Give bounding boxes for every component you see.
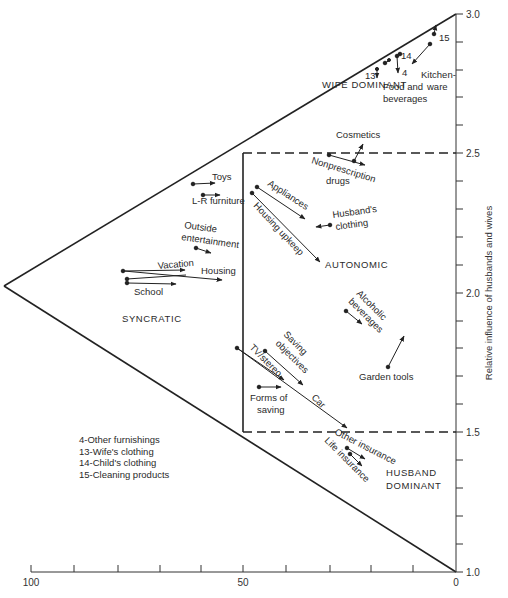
label-13: 13 — [365, 70, 376, 81]
label-car: Car — [310, 392, 329, 411]
label-4: 4 — [402, 67, 407, 78]
x-axis — [31, 565, 456, 572]
y-tick-2-0: 2.0 — [466, 288, 480, 299]
y-tick-1-0: 1.0 — [466, 567, 480, 578]
label-appliances: Appliances — [266, 177, 311, 212]
y-tick-3-0: 3.0 — [466, 9, 480, 20]
label-vacation: Vacation — [157, 257, 194, 271]
legend-item: 4-Other furnishings — [79, 434, 169, 446]
region-syncratic: SYNCRATIC — [122, 313, 182, 324]
label-housing-upkeep: Housing upkeep — [252, 200, 307, 258]
y-tick-1-5: 1.5 — [466, 427, 480, 438]
region-husband-dominant-line1: HUSBAND — [386, 467, 437, 478]
x-axis-labels: Percent — [0, 578, 508, 598]
label-kitchenware-1: Kitchen- — [421, 69, 456, 80]
label-cosmetics: Cosmetics — [336, 129, 381, 140]
label-lr-furniture: L-R furniture — [192, 195, 245, 206]
label-15: 15 — [439, 32, 450, 43]
legend: 4-Other furnishings 13-Wife's clothing 1… — [79, 434, 169, 480]
legend-item: 13-Wife's clothing — [79, 446, 169, 458]
label-housing: Housing — [201, 265, 236, 276]
label-kitchenware-2: ware — [426, 81, 448, 92]
region-husband-dominant-line2: DOMINANT — [386, 480, 441, 491]
label-forms-of-saving-1: Forms of — [250, 392, 288, 403]
legend-item: 15-Cleaning products — [79, 469, 169, 481]
label-nonprescription-2: drugs — [326, 175, 350, 186]
label-14: 14 — [401, 50, 412, 61]
y-axis-title: Relative influence of husbands and wives — [483, 206, 494, 381]
label-garden-tools: Garden tools — [359, 371, 414, 382]
label-school: School — [134, 286, 163, 297]
y-axis — [456, 14, 463, 572]
label-food-2: beverages — [383, 93, 428, 104]
label-forms-of-saving-2: saving — [257, 404, 284, 415]
label-toys: Toys — [212, 171, 232, 182]
region-autonomic: AUTONOMIC — [325, 259, 388, 270]
y-tick-2-5: 2.5 — [466, 148, 480, 159]
label-outside-2: entertainment — [181, 231, 240, 250]
label-food-1: Food and — [383, 81, 423, 92]
role-specialization-chart: 3.0 2.5 2.0 1.5 1.0 Relative influence o… — [0, 0, 508, 598]
region-boundaries — [243, 153, 456, 432]
legend-item: 14-Child's clothing — [79, 457, 169, 469]
